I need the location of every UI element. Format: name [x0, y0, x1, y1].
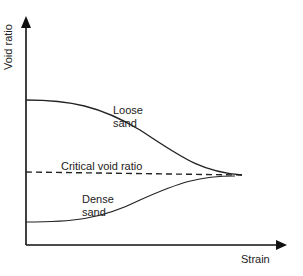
critical-void-ratio-label: Critical void ratio [61, 160, 142, 173]
dense-label-line2: sand [82, 206, 106, 219]
dense-sand-curve [26, 176, 235, 222]
y-axis-arrow-icon [21, 16, 31, 28]
x-axis-label: Strain [241, 253, 270, 266]
diagram-canvas [0, 0, 303, 276]
dense-label-line1: Dense [82, 193, 114, 206]
loose-label-line1: Loose [113, 104, 143, 117]
x-axis-arrow-icon [276, 240, 287, 250]
y-axis-label: Void ratio [2, 24, 14, 70]
loose-label-line2: sand [113, 117, 137, 130]
